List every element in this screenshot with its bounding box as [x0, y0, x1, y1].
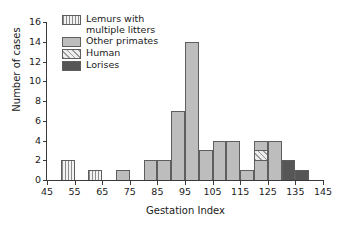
- legend-label-lemurs: Lemurs with multiple litters: [86, 14, 155, 35]
- x-tick-mark: [240, 181, 241, 185]
- legend-swatch-other: [62, 37, 81, 47]
- legend-item-other: Other primates: [62, 36, 197, 47]
- bar-segment-lemurs: [61, 160, 75, 181]
- x-tick-label: 105: [198, 187, 228, 197]
- histogram-bar: [254, 22, 268, 180]
- y-tick-label: 10: [29, 76, 41, 86]
- y-tick-label: 16: [29, 17, 41, 27]
- bar-segment-human: [254, 150, 268, 161]
- x-tick-mark: [157, 181, 158, 185]
- bar-segment-other: [254, 160, 268, 181]
- x-tick-label: 85: [142, 187, 172, 197]
- bar-segment-other: [254, 141, 268, 152]
- y-tick-label: 12: [29, 57, 41, 67]
- histogram-bar: [295, 22, 309, 180]
- histogram-bar: [240, 22, 254, 180]
- legend-swatch-lorises: [62, 61, 81, 71]
- x-tick-mark: [102, 181, 103, 185]
- legend-item-human: Human: [62, 48, 197, 59]
- bar-segment-other: [226, 141, 240, 182]
- bar-segment-other: [171, 111, 185, 181]
- x-tick-mark: [130, 181, 131, 185]
- y-tick-label: 8: [35, 96, 41, 106]
- x-tick-label: 115: [225, 187, 255, 197]
- histogram-bar: [282, 22, 296, 180]
- bar-segment-other: [213, 141, 227, 182]
- x-tick-mark: [213, 181, 214, 185]
- bar-segment-other: [268, 141, 282, 182]
- legend-item-lemurs: Lemurs with multiple litters: [62, 14, 197, 35]
- histogram-figure: 0246810121416 Number of cases 4555657585…: [0, 0, 342, 228]
- x-tick-mark: [185, 181, 186, 185]
- histogram-bar: [268, 22, 282, 180]
- y-axis-ticks: 0246810121416: [0, 0, 47, 181]
- x-tick-label: 45: [32, 187, 62, 197]
- x-tick-mark: [295, 181, 296, 185]
- legend-swatch-human: [62, 49, 81, 59]
- x-tick-label: 145: [308, 187, 338, 197]
- x-tick-label: 95: [170, 187, 200, 197]
- legend-label-other: Other primates: [86, 36, 158, 47]
- y-tick-label: 2: [35, 155, 41, 165]
- x-tick-label: 125: [253, 187, 283, 197]
- y-tick-label: 14: [29, 37, 41, 47]
- bar-segment-other: [199, 150, 213, 181]
- bar-segment-lorises: [282, 160, 296, 181]
- y-axis-title: Number of cases: [11, 10, 22, 130]
- x-tick-label: 65: [87, 187, 117, 197]
- y-tick-label: 0: [35, 175, 41, 185]
- x-axis-ticks: 455565758595105115125135145: [47, 181, 324, 205]
- y-tick-label: 6: [35, 116, 41, 126]
- x-tick-label: 55: [60, 187, 90, 197]
- bar-segment-other: [144, 160, 158, 181]
- bar-segment-other: [157, 160, 171, 181]
- legend-swatch-lemurs: [62, 15, 81, 25]
- histogram-bar: [213, 22, 227, 180]
- x-axis-title: Gestation Index: [47, 205, 324, 216]
- histogram-bar: [199, 22, 213, 180]
- histogram-bar: [226, 22, 240, 180]
- x-tick-label: 75: [115, 187, 145, 197]
- x-tick-label: 135: [280, 187, 310, 197]
- x-tick-mark: [268, 181, 269, 185]
- legend-item-lorises: Lorises: [62, 60, 197, 71]
- y-tick-label: 4: [35, 136, 41, 146]
- x-tick-mark: [323, 181, 324, 185]
- legend: Lemurs with multiple littersOther primat…: [62, 14, 197, 72]
- legend-label-lorises: Lorises: [86, 60, 119, 71]
- legend-label-human: Human: [86, 48, 120, 59]
- x-tick-mark: [47, 181, 48, 185]
- x-tick-mark: [75, 181, 76, 185]
